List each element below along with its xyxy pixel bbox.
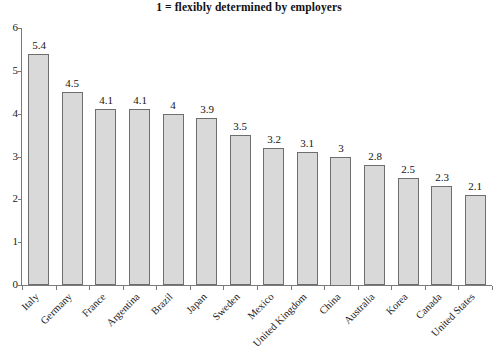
- y-axis-tick-label-wrap: 4: [0, 108, 18, 119]
- x-axis-tick: [358, 286, 359, 290]
- y-axis-tick: [18, 71, 22, 72]
- y-axis-tick: [18, 242, 22, 243]
- y-axis-tick-label-wrap: 3: [0, 151, 18, 162]
- x-axis-tick: [425, 286, 426, 290]
- y-axis-tick-label: 2: [2, 193, 18, 204]
- y-axis-tick-label-wrap: 0: [0, 279, 18, 290]
- x-axis-tick: [492, 286, 493, 290]
- bar: [263, 148, 284, 285]
- x-axis-tick: [22, 286, 23, 290]
- bar-value-label: 5.4: [19, 40, 59, 51]
- y-axis-tick: [18, 28, 22, 29]
- y-axis-tick-label-wrap: 5: [0, 65, 18, 76]
- x-axis-tick: [458, 286, 459, 290]
- y-axis-tick-label-wrap: 2: [0, 193, 18, 204]
- bar: [465, 195, 486, 285]
- bar-value-label: 3.5: [220, 121, 260, 132]
- x-axis-tick: [257, 286, 258, 290]
- bar: [364, 165, 385, 285]
- bar: [297, 152, 318, 285]
- y-axis-tick-label: 5: [2, 65, 18, 76]
- category-label: Canada: [414, 291, 444, 321]
- y-axis-tick-label: 3: [2, 151, 18, 162]
- x-axis-tick: [324, 286, 325, 290]
- category-label: Australia: [342, 291, 377, 326]
- x-axis-tick: [223, 286, 224, 290]
- chart-title: 1 = flexibly determined by employers: [0, 1, 498, 13]
- category-label: Argentina: [104, 291, 141, 328]
- bar: [230, 135, 251, 285]
- x-axis-tick: [89, 286, 90, 290]
- y-axis-tick-label: 0: [2, 279, 18, 290]
- bar: [28, 54, 49, 285]
- bar-value-label: 2.1: [455, 181, 495, 192]
- x-axis-tick: [190, 286, 191, 290]
- bar-value-label: 4.5: [52, 78, 92, 89]
- category-label: China: [317, 291, 343, 317]
- bar: [62, 92, 83, 285]
- category-label: Germany: [38, 291, 73, 326]
- bar: [398, 178, 419, 285]
- category-label: Italy: [19, 291, 40, 312]
- category-label: Korea: [384, 291, 410, 317]
- y-axis-tick-label-wrap: 1: [0, 236, 18, 247]
- x-axis-tick: [123, 286, 124, 290]
- category-label: France: [80, 291, 108, 319]
- bar-value-label: 3.9: [187, 104, 227, 115]
- x-axis-tick: [56, 286, 57, 290]
- bar: [95, 109, 116, 285]
- category-label: Brazil: [149, 291, 175, 317]
- y-axis-tick-label: 1: [2, 236, 18, 247]
- x-axis-tick: [291, 286, 292, 290]
- y-axis-tick-label: 4: [2, 108, 18, 119]
- category-label: Mexico: [245, 291, 275, 321]
- y-axis-tick: [18, 199, 22, 200]
- bar: [431, 186, 452, 285]
- category-label: Japan: [184, 291, 209, 316]
- y-axis-tick: [18, 157, 22, 158]
- x-axis-tick: [391, 286, 392, 290]
- bar-value-label: 2.8: [355, 151, 395, 162]
- y-axis-tick: [18, 114, 22, 115]
- y-axis-tick-label-wrap: 6: [0, 22, 18, 33]
- x-axis-tick: [156, 286, 157, 290]
- category-label: Sweden: [210, 291, 241, 322]
- bar: [196, 118, 217, 285]
- bar: [129, 109, 150, 285]
- bar: [163, 114, 184, 285]
- y-axis-tick-label: 6: [2, 22, 18, 33]
- bar-chart: 1 = flexibly determined by employers 012…: [0, 0, 498, 360]
- bar: [330, 157, 351, 286]
